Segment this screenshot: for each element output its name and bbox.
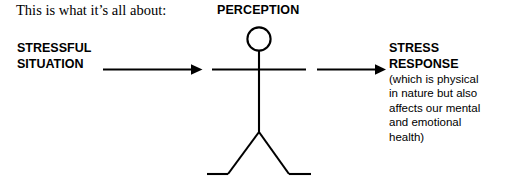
arrow-right-icon-left [103,64,203,75]
arrow-right-icon-right [317,64,386,75]
stick-figure-head [247,27,270,50]
arrow-head [191,64,203,75]
stick-figure-leg-right [259,132,289,174]
stick-figure-leg-left [228,132,259,174]
diagram-artwork [0,0,506,186]
arrow-head [375,64,386,75]
stress-response-diagram: This is what it’s all about: PERCEPTION … [0,0,506,186]
stick-figure-person-icon [207,27,311,174]
